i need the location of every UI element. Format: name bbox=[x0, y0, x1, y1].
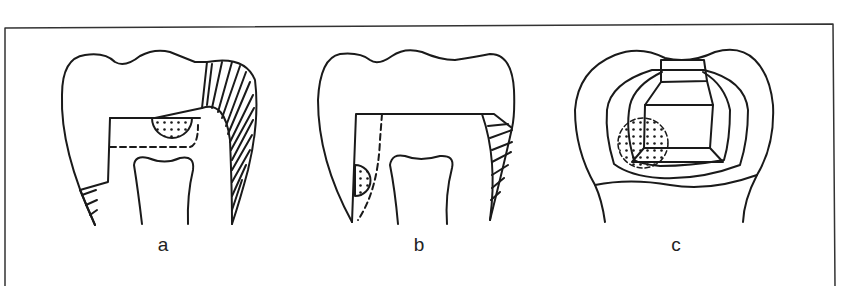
panel-label-b: b bbox=[414, 234, 425, 256]
panel-label-a: a bbox=[158, 234, 169, 256]
tooth-c bbox=[575, 50, 773, 222]
tooth-diagram bbox=[0, 0, 852, 286]
tooth-b bbox=[318, 50, 514, 224]
tooth-a bbox=[62, 51, 257, 225]
panel-label-c: c bbox=[671, 234, 681, 256]
